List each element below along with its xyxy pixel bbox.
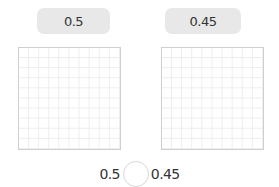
left-hundred-grid[interactable]	[18, 47, 121, 150]
comparison-symbol-slot[interactable]	[123, 161, 149, 187]
left-value-text: 0.5	[64, 14, 83, 29]
right-value-text: 0.45	[190, 14, 217, 29]
comparison-right-value: 0.45	[151, 166, 180, 182]
right-hundred-grid[interactable]	[161, 47, 264, 150]
comparison-row: 0.5 0.45	[0, 161, 279, 187]
right-value-label: 0.45	[165, 8, 241, 34]
comparison-left-value: 0.5	[99, 166, 119, 182]
left-value-label: 0.5	[37, 8, 110, 34]
